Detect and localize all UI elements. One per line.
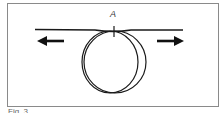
loop-inner xyxy=(82,31,138,93)
right-arrow-icon xyxy=(157,36,184,46)
loop-outer xyxy=(84,31,146,93)
point-label-a: A xyxy=(110,10,116,19)
left-arrow-icon xyxy=(37,36,64,46)
figure-caption: Fig. 3 xyxy=(8,108,28,113)
